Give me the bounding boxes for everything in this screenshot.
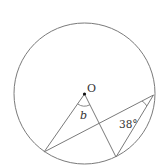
center-label: O xyxy=(87,82,96,95)
angle-arc-38 xyxy=(142,101,147,106)
radius-left xyxy=(44,94,85,152)
angle-b-label: b xyxy=(80,109,87,122)
circle-geometry-diagram: O b 38° xyxy=(0,0,160,167)
angle-38-label: 38° xyxy=(119,118,138,130)
angle-arc-b xyxy=(78,104,90,106)
center-point xyxy=(83,92,86,95)
radius-bottom xyxy=(85,94,117,157)
